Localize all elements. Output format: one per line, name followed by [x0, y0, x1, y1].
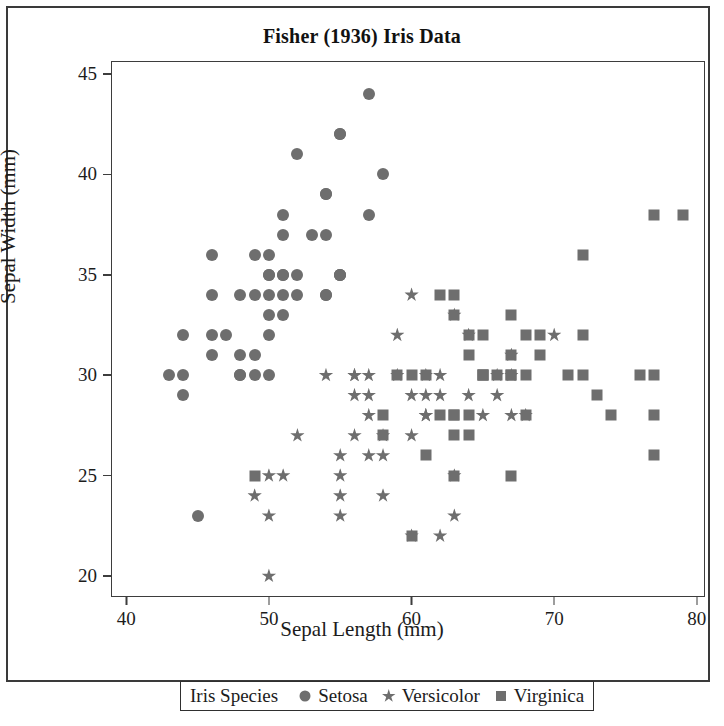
data-point-versicolor	[318, 368, 333, 383]
data-point-setosa	[249, 349, 261, 361]
data-point-setosa	[234, 349, 246, 361]
plot-frame: 2025303540454050607080	[111, 61, 705, 597]
data-point-virginica	[649, 209, 660, 220]
data-point-virginica	[520, 330, 531, 341]
data-point-versicolor	[261, 568, 276, 583]
data-point-versicolor	[261, 508, 276, 523]
x-tick-mark	[696, 596, 698, 605]
data-point-versicolor	[447, 508, 462, 523]
data-point-virginica	[649, 370, 660, 381]
data-point-versicolor	[461, 328, 476, 343]
data-point-setosa	[334, 269, 346, 281]
data-point-virginica	[463, 350, 474, 361]
data-point-virginica	[534, 350, 545, 361]
data-point-versicolor	[290, 428, 305, 443]
data-point-setosa	[263, 289, 275, 301]
y-axis-tick: 25	[78, 465, 112, 487]
data-point-virginica	[534, 330, 545, 341]
data-point-virginica	[378, 410, 389, 421]
data-point-versicolor	[504, 408, 519, 423]
data-point-virginica	[592, 390, 603, 401]
y-axis-tick: 40	[78, 163, 112, 185]
data-point-setosa	[277, 289, 289, 301]
data-point-versicolor	[361, 368, 376, 383]
data-point-virginica	[477, 370, 488, 381]
y-tick-label: 40	[78, 163, 103, 185]
data-point-versicolor	[433, 528, 448, 543]
data-point-virginica	[378, 430, 389, 441]
data-point-setosa	[277, 269, 289, 281]
legend-label: Virginica	[514, 685, 584, 707]
data-point-virginica	[477, 330, 488, 341]
data-point-versicolor	[261, 468, 276, 483]
data-point-versicolor	[404, 388, 419, 403]
data-point-virginica	[506, 470, 517, 481]
y-tick-label: 45	[78, 63, 103, 85]
data-point-versicolor	[361, 448, 376, 463]
data-point-setosa	[306, 229, 318, 241]
y-axis-tick: 45	[78, 63, 112, 85]
y-tick-mark	[103, 174, 112, 176]
data-point-versicolor	[433, 388, 448, 403]
x-axis-label: Sepal Length (mm)	[0, 617, 724, 642]
square-marker-icon	[494, 689, 508, 703]
data-point-versicolor	[347, 368, 362, 383]
data-point-versicolor	[547, 328, 562, 343]
legend-entry-virginica[interactable]: Virginica	[494, 685, 584, 707]
y-axis-tick: 30	[78, 364, 112, 386]
data-point-virginica	[420, 450, 431, 461]
legend-title: Iris Species	[190, 685, 284, 707]
data-point-setosa	[192, 510, 204, 522]
data-point-setosa	[263, 269, 275, 281]
data-point-virginica	[406, 370, 417, 381]
data-point-versicolor	[347, 388, 362, 403]
data-point-versicolor	[447, 307, 462, 322]
data-point-setosa	[206, 329, 218, 341]
data-point-setosa	[206, 349, 218, 361]
data-point-setosa	[320, 289, 332, 301]
data-point-virginica	[435, 289, 446, 300]
data-point-versicolor	[418, 368, 433, 383]
x-tick-mark	[126, 596, 128, 605]
x-tick-mark	[268, 596, 270, 605]
data-point-virginica	[477, 370, 488, 381]
data-point-virginica	[463, 410, 474, 421]
y-tick-label: 25	[78, 465, 103, 487]
data-point-setosa	[234, 289, 246, 301]
data-point-virginica	[463, 330, 474, 341]
y-tick-label: 35	[78, 264, 103, 286]
data-point-virginica	[249, 470, 260, 481]
data-point-versicolor	[404, 428, 419, 443]
data-point-versicolor	[404, 287, 419, 302]
data-point-versicolor	[376, 428, 391, 443]
data-point-virginica	[449, 410, 460, 421]
data-point-setosa	[320, 188, 332, 200]
y-tick-mark	[103, 475, 112, 477]
legend-entry-versicolor[interactable]: Versicolor	[382, 685, 480, 707]
data-point-setosa	[334, 128, 346, 140]
data-point-versicolor	[504, 348, 519, 363]
data-point-setosa	[177, 369, 189, 381]
legend-label: Setosa	[318, 685, 368, 707]
data-point-virginica	[577, 330, 588, 341]
data-point-setosa	[334, 128, 346, 140]
data-point-setosa	[177, 329, 189, 341]
data-point-virginica	[677, 209, 688, 220]
data-point-setosa	[263, 369, 275, 381]
data-point-virginica	[634, 370, 645, 381]
data-point-versicolor	[361, 408, 376, 423]
x-tick-mark	[411, 596, 413, 605]
data-point-versicolor	[418, 388, 433, 403]
data-point-virginica	[506, 309, 517, 320]
data-point-versicolor	[361, 388, 376, 403]
circle-marker-icon	[298, 689, 312, 703]
data-point-versicolor	[475, 408, 490, 423]
data-point-virginica	[563, 370, 574, 381]
data-point-virginica	[435, 410, 446, 421]
data-point-setosa	[320, 229, 332, 241]
legend-entry-setosa[interactable]: Setosa	[298, 685, 368, 707]
data-point-versicolor	[404, 528, 419, 543]
data-point-setosa	[320, 289, 332, 301]
data-point-versicolor	[490, 388, 505, 403]
data-point-setosa	[363, 209, 375, 221]
